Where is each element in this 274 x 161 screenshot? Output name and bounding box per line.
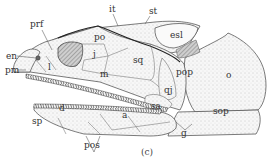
label-d: d [59, 104, 65, 113]
label-a: a [122, 111, 127, 120]
label-it: it [109, 5, 116, 14]
label-st: st [149, 7, 157, 16]
label-esl: esl [170, 31, 183, 40]
label-m: m [100, 70, 109, 79]
label-qj: qj [164, 86, 173, 95]
label-sop: sop [213, 107, 229, 116]
label-g: g [181, 129, 187, 138]
label-sa: sa [151, 102, 161, 111]
label-pos: pos [84, 141, 100, 150]
label-l: l [48, 63, 51, 72]
orbit [58, 42, 83, 67]
label-o: o [226, 71, 231, 80]
label-sq: sq [133, 56, 143, 65]
label-pop: pop [176, 68, 193, 77]
figure-caption: (c) [141, 148, 153, 157]
label-pm: pm [5, 66, 19, 75]
label-po: po [94, 33, 105, 42]
label-prf: prf [30, 20, 43, 29]
label-sp: sp [32, 117, 42, 126]
label-j: j [93, 50, 96, 59]
label-en: en [6, 52, 17, 61]
external-nostril [36, 56, 40, 60]
